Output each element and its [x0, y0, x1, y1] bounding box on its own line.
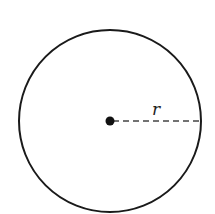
center-point: [106, 117, 115, 126]
radius-label: r: [152, 99, 161, 119]
circle-diagram: r: [0, 0, 215, 214]
